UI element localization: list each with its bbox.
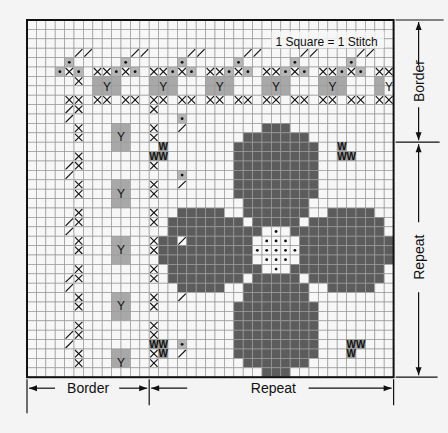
svg-text:W: W xyxy=(356,339,366,350)
svg-text:Y: Y xyxy=(103,80,111,94)
right-repeat-label: Repeat xyxy=(411,235,427,280)
svg-text:Y: Y xyxy=(272,80,280,94)
svg-text:Y: Y xyxy=(385,80,393,94)
svg-text:Y: Y xyxy=(117,187,125,201)
svg-text:Y: Y xyxy=(216,80,224,94)
svg-text:Y: Y xyxy=(117,299,125,313)
svg-text:W: W xyxy=(159,151,169,162)
right-border-label: Border xyxy=(411,60,427,102)
svg-text:Y: Y xyxy=(159,80,167,94)
svg-text:Y: Y xyxy=(117,130,125,144)
svg-text:Y: Y xyxy=(117,243,125,257)
stitch-chart: YYYYYYYYYYYWWWWWWWWWWWW1 Square = 1 Stit… xyxy=(0,0,448,433)
svg-text:W: W xyxy=(347,348,357,359)
svg-text:Y: Y xyxy=(328,80,336,94)
scale-note: 1 Square = 1 Stitch xyxy=(275,35,377,49)
bottom-border-label: Border xyxy=(67,380,109,396)
bottom-repeat-label: Repeat xyxy=(251,380,296,396)
svg-text:Y: Y xyxy=(117,356,125,370)
svg-text:W: W xyxy=(159,348,169,359)
svg-text:W: W xyxy=(347,151,357,162)
